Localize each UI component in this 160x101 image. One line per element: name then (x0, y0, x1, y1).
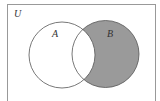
universe-label: U (14, 8, 22, 19)
venn-diagram: U A B (0, 0, 160, 101)
set-b-label: B (107, 28, 113, 39)
set-a-label: A (51, 28, 59, 39)
